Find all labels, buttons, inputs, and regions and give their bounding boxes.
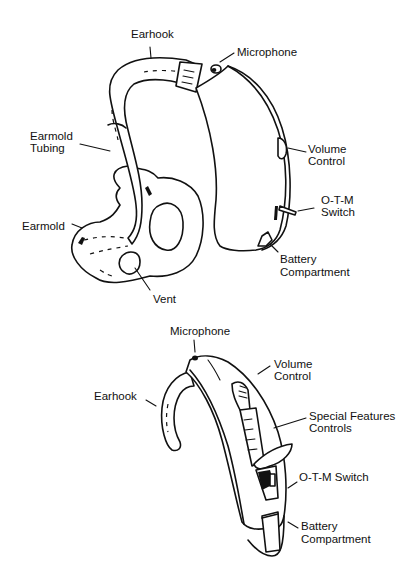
label-special-features-line2: Controls <box>309 422 352 434</box>
label-volume-control-bottom-line2: Control <box>274 370 311 382</box>
label-volume-control-line2: Control <box>308 155 345 167</box>
label-battery-bottom-line1: Battery <box>301 520 338 532</box>
label-otm-switch-line1: O-T-M <box>321 194 354 206</box>
bottom-figure: Microphone Volume Control Earhook Specia… <box>94 325 396 556</box>
label-battery-line2: Compartment <box>280 266 350 278</box>
label-vent: Vent <box>153 293 177 305</box>
microphone-port-bottom <box>192 356 198 361</box>
bte-body-top <box>196 66 286 251</box>
label-earhook: Earhook <box>131 28 174 40</box>
label-battery-bottom-line2: Compartment <box>301 533 371 545</box>
label-volume-control-bottom-line1: Volume <box>274 358 312 370</box>
label-earhook-bottom: Earhook <box>94 390 137 402</box>
hearing-aid-diagram: Earhook Microphone Earmold Tubing Volume… <box>0 0 419 571</box>
top-figure: Earhook Microphone Earmold Tubing Volume… <box>22 28 355 305</box>
earhook-bottom <box>162 372 194 451</box>
label-earmold-tubing-line2: Tubing <box>30 142 65 154</box>
label-microphone: Microphone <box>237 46 297 58</box>
label-earmold-tubing-line1: Earmold <box>30 130 73 142</box>
label-otm-switch-bottom: O-T-M Switch <box>299 471 369 483</box>
label-earmold: Earmold <box>22 220 65 232</box>
label-special-features-line1: Special Features <box>309 410 396 422</box>
label-otm-switch-line2: Switch <box>321 206 355 218</box>
label-microphone-bottom: Microphone <box>170 325 230 337</box>
label-volume-control-line1: Volume <box>308 143 346 155</box>
label-battery-line1: Battery <box>280 253 317 265</box>
